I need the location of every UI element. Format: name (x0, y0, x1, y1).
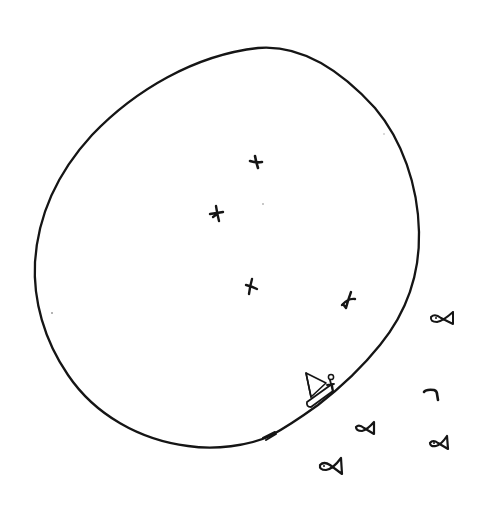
person-head (328, 374, 333, 379)
sketch-canvas (0, 0, 480, 509)
fish-icon (431, 312, 453, 324)
fish-icon (356, 422, 374, 434)
fish-icon (320, 458, 342, 474)
bird-icon (210, 206, 223, 221)
bird-icon (246, 279, 257, 294)
bird-icon (250, 156, 262, 168)
bird-icon (342, 292, 355, 308)
sailboat-icon (306, 373, 334, 407)
island-outline (35, 48, 419, 448)
paper-speck (51, 312, 53, 314)
paper-speck (262, 203, 263, 204)
fish-icon (424, 390, 438, 400)
paper-speck (383, 133, 384, 134)
fish-icon (430, 436, 448, 449)
